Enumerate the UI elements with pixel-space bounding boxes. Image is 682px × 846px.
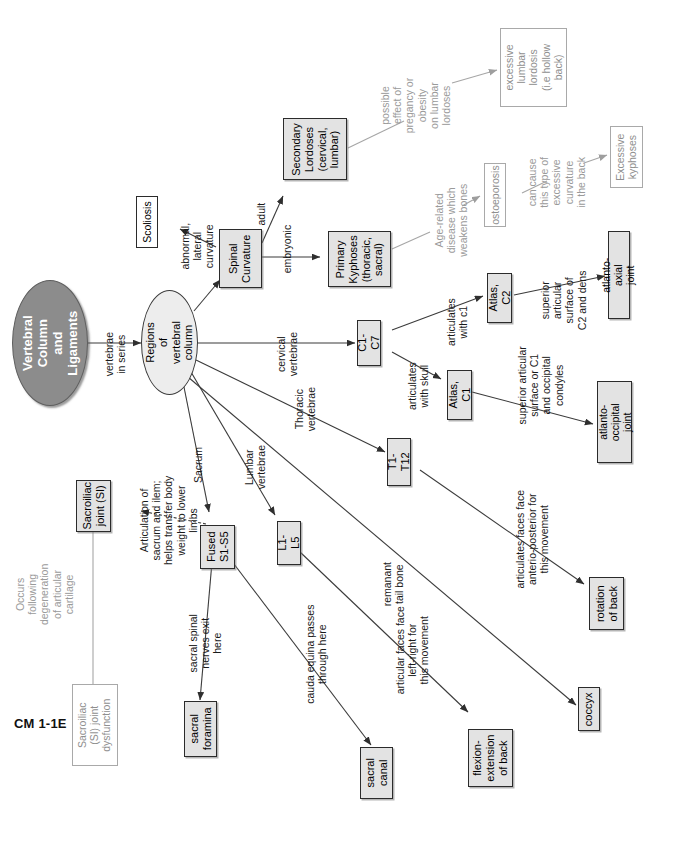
node-sacral-foramina-label: sacral foramina xyxy=(188,708,214,751)
node-coccyx[interactable]: coccyx xyxy=(578,687,600,731)
edge-label-cervical-vertebrae: cervical vertebrae xyxy=(259,330,315,379)
node-scoliosis-label: Scoliosis xyxy=(141,201,153,242)
node-secondary-lordoses[interactable]: Secondary Lordoses (cervical, lumbar) xyxy=(283,118,347,180)
node-sacroiliac-joint-label: Sacroiliac joint (SI) xyxy=(81,482,107,530)
node-spinal-curvature-label: Spinal Curvature xyxy=(228,234,254,282)
node-hub[interactable]: Regions of vertebral column xyxy=(141,290,198,395)
node-si-joint-dysfunction[interactable]: Sacroiliac (SI) joint dysfunction xyxy=(72,684,118,766)
node-sacral-foramina[interactable]: sacral foramina xyxy=(184,701,217,757)
node-t1-t12-label: T1-T12 xyxy=(386,451,412,473)
edge-label-articulates-with-skull: articulates with skull xyxy=(390,362,446,411)
node-primary-kyphoses[interactable]: Primary Kyphoses (thoracic, sacral) xyxy=(328,231,391,287)
node-rotation-of-back[interactable]: rotation of back xyxy=(589,577,624,630)
node-hub-label: Regions of vertebral column xyxy=(144,315,195,370)
node-excessive-kyphoses-label: Excessive kyphoses xyxy=(614,133,638,180)
node-atlanto-axial-joint-label: atlanto-axial joint xyxy=(601,257,638,292)
edge-label-sacral-spinal-nerves: sacral spinal nerves exit here xyxy=(175,613,235,674)
node-l1-l5[interactable]: L1-L5 xyxy=(277,521,301,565)
node-scoliosis[interactable]: Scoliosis xyxy=(136,196,158,248)
node-excessive-lumbar-lordosis[interactable]: excessive lumbar lordosis (i.e hollow ba… xyxy=(500,28,567,107)
document-corner-tag: CM 1-1E xyxy=(14,716,67,731)
edge-label-articulation-of-sacrum: Articulation of sacrum and ilem; helps t… xyxy=(120,478,216,563)
node-primary-kyphoses-label: Primary Kyphoses (thoracic, sacral) xyxy=(334,235,385,283)
node-sacral-canal-label: sacral canal xyxy=(364,758,390,787)
edge-label-superior-articular-c1-condyles: superior articular surface or C1 and occ… xyxy=(492,349,588,422)
node-root[interactable]: Vertebral Column and Ligaments xyxy=(12,280,88,406)
edge-label-embryonic: embryonic xyxy=(262,231,312,268)
edge-label-superior-articular-c2-dens: superior articular surface of C2 and den… xyxy=(525,264,601,337)
node-atlanto-occipital-joint[interactable]: atlanto-occipital joint xyxy=(597,381,632,463)
edge-label-age-related: Age-related disease which weakens bones xyxy=(411,190,491,251)
edge-label-articulates-with-c1: articulates with c1 xyxy=(429,298,485,347)
edge-label-vertebrae-in-series: vertebrae in series xyxy=(88,330,142,379)
node-root-label: Vertebral Column and Ligaments xyxy=(20,306,80,380)
node-si-joint-dysfunction-label: Sacroiliac (SI) joint dysfunction xyxy=(77,698,114,751)
edge-label-thoracic-vertebrae: Thoracic vertebrae xyxy=(277,385,333,434)
edge-label-occurs-following: Occurs following degeneration of articul… xyxy=(8,552,80,637)
edge-label-cauda-equina: cauda equina passes through here xyxy=(262,630,370,679)
node-excessive-lumbar-lordosis-label: excessive lumbar lordosis (i.e hollow ba… xyxy=(503,44,564,91)
node-l1-l5-label: L1-L5 xyxy=(276,532,302,554)
node-atlas-c1[interactable]: Atlas, C1 xyxy=(447,370,472,420)
node-excessive-kyphoses[interactable]: Excessive kyphoses xyxy=(610,126,643,188)
node-sacral-canal[interactable]: sacral canal xyxy=(360,747,393,799)
edge-label-possible-effect: possible effect of pregancy or obesity o… xyxy=(380,57,452,154)
node-atlanto-axial-joint[interactable]: atlanto-axial joint xyxy=(608,231,630,319)
edge-label-articular-faces-left-right: articular faces face left-right for this… xyxy=(360,620,464,681)
node-rotation-of-back-label: rotation of back xyxy=(594,585,620,622)
edge-label-adult: adult xyxy=(247,196,275,233)
node-atlas-c2[interactable]: Atlas, C2 xyxy=(487,273,512,323)
node-c1-c7[interactable]: C1-C7 xyxy=(357,320,381,366)
node-flexion-extension-label: flexion- extension of back xyxy=(471,734,509,781)
node-sacroiliac-joint[interactable]: Sacroiliac joint (SI) xyxy=(76,480,111,532)
node-atlas-c2-label: Atlas, C2 xyxy=(487,284,513,312)
node-t1-t12[interactable]: T1-T12 xyxy=(387,438,411,486)
node-coccyx-label: coccyx xyxy=(583,692,596,726)
node-c1-c7-label: C1-C7 xyxy=(356,332,382,354)
node-atlas-c1-label: Atlas, C1 xyxy=(447,381,473,409)
edge-label-remanant-tail-bone: remanant tail bone xyxy=(364,560,422,609)
node-flexion-extension[interactable]: flexion- extension of back xyxy=(468,729,513,787)
node-secondary-lordoses-label: Secondary Lordoses (cervical, lumbar) xyxy=(290,123,341,176)
node-atlanto-occipital-joint-label: atlanto-occipital joint xyxy=(596,403,633,441)
edge-label-lumbar-vertebrae: Lumbar vertebrae xyxy=(227,443,283,492)
edge-label-abnormal-lateral-curvature: abnormal, lateral curvature xyxy=(168,216,226,277)
edge-label-can-cause: can cause this type of excessive curvatu… xyxy=(522,140,590,225)
concept-map-canvas: Vertebral Column and Ligaments Regions o… xyxy=(0,0,682,846)
edge-label-articulates-faces-ap: articulates faces face anterio-posterior… xyxy=(477,509,587,570)
